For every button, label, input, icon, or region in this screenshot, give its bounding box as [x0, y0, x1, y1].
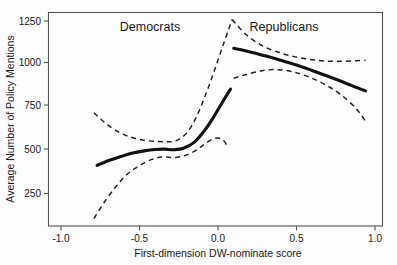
- x-tick-label-05: 0.5: [290, 233, 304, 244]
- x-tick-label-0: 0.0: [211, 233, 225, 244]
- chart-svg: 1250 1000 750 500 250 -1.0 -0.5 0.0 0.5 …: [0, 0, 397, 265]
- y-axis-title: Average Number of Policy Mentions: [4, 35, 16, 202]
- figure-background: [0, 0, 397, 265]
- y-tick-label-250: 250: [24, 188, 41, 199]
- y-tick-label-750: 750: [24, 100, 41, 111]
- x-axis-title: First-dimension DW-nominate score: [134, 247, 301, 259]
- y-tick-label-500: 500: [24, 144, 41, 155]
- x-tick-label-1: 1.0: [368, 233, 382, 244]
- x-tick-label-neg05: -0.5: [131, 233, 149, 244]
- y-tick-label-1250: 1250: [19, 16, 42, 27]
- y-tick-label-1000: 1000: [19, 57, 42, 68]
- republicans-panel-label: Republicans: [250, 20, 319, 34]
- x-tick-label-neg1: -1.0: [52, 233, 70, 244]
- democrats-panel-label: Democrats: [120, 20, 180, 34]
- chart-figure: 1250 1000 750 500 250 -1.0 -0.5 0.0 0.5 …: [0, 0, 397, 265]
